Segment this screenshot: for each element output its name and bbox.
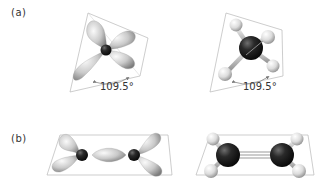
panel-b-ethylene xyxy=(196,133,314,179)
bond-angle-label: 109.5° xyxy=(243,81,277,92)
panel-label-b: (b) xyxy=(11,133,27,144)
orbital-lobe xyxy=(73,50,106,80)
hydrogen-atom xyxy=(218,67,232,81)
panel-b-orbitals xyxy=(47,133,172,176)
hydrogen-atom xyxy=(230,19,243,32)
hydrogen-atom xyxy=(261,30,275,44)
carbon-atom xyxy=(216,143,240,167)
hydrogen-atom xyxy=(292,164,306,178)
hydrogen-atom xyxy=(267,60,280,73)
orbital-lobe xyxy=(52,155,80,172)
orbital-lobe xyxy=(92,148,126,162)
panel-label-a: (a) xyxy=(11,7,26,18)
hydrogen-atom xyxy=(291,133,304,146)
carbon-atom xyxy=(270,143,294,167)
hybridization-diagram xyxy=(0,0,324,196)
orbital-lobe xyxy=(59,134,80,155)
bond-angle-label: 109.5° xyxy=(100,81,134,92)
carbon-nucleus xyxy=(128,149,140,161)
carbon-nucleus xyxy=(101,45,112,56)
carbon-nucleus xyxy=(76,149,88,161)
orbital-lobe xyxy=(136,155,162,176)
hydrogen-atom xyxy=(207,133,220,146)
orbital-lobe xyxy=(136,133,161,155)
hydrogen-atom xyxy=(204,164,218,178)
carbon-atom xyxy=(239,36,263,60)
